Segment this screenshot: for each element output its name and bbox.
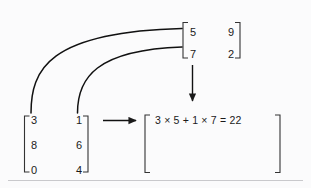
left-matrix-cell-r0c1: 1 (76, 115, 82, 126)
result-matrix-bracket-open (145, 115, 150, 173)
row-1-to-column-2-arc (78, 47, 183, 113)
row-1-to-column-1-arc (31, 29, 182, 114)
right-matrix-cell-r0c0: 5 (190, 27, 196, 38)
diagram-canvas (0, 0, 311, 188)
left-matrix-bracket-close (83, 116, 88, 172)
right-matrix-cell-r1c1: 2 (228, 49, 234, 60)
right-matrix-cell-r0c1: 9 (228, 27, 234, 38)
matrix-multiplication-figure: 3 1 8 6 0 4 5 9 7 2 3 × 5 + 1 × 7 = 22 (0, 0, 311, 188)
right-matrix-bracket-open (183, 23, 188, 59)
result-matrix-bracket-close (275, 115, 280, 173)
left-matrix-cell-r0c0: 3 (31, 115, 37, 126)
left-matrix-cell-r2c0: 0 (31, 165, 37, 176)
left-matrix-cell-r1c0: 8 (31, 140, 37, 151)
left-matrix-bracket-open (25, 116, 30, 172)
right-matrix-cell-r1c0: 7 (190, 49, 196, 60)
right-matrix-bracket-close (235, 23, 240, 59)
bottom-divider (8, 180, 303, 181)
left-matrix-cell-r1c1: 6 (76, 140, 82, 151)
left-matrix-cell-r2c1: 4 (76, 165, 82, 176)
result-matrix-equation: 3 × 5 + 1 × 7 = 22 (155, 115, 242, 126)
